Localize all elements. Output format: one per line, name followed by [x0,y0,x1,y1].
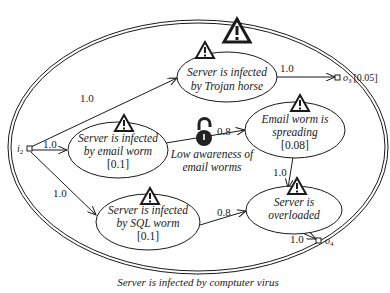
svg-text:overloaded: overloaded [268,209,320,221]
unlocked-padlock-icon [196,119,212,147]
svg-text:Server is infected: Server is infected [187,66,267,79]
output-port-o3: o3[0.05] [335,72,378,85]
edge-label: 1.0 [53,187,67,199]
edge-label: 1.0 [280,62,294,74]
svg-text:Email worm is: Email worm is [260,113,329,125]
node-overloaded: Server is overloaded [246,178,342,234]
node-sql-worm: Server is infected by SQL worm [0.1] [96,188,200,250]
svg-text:i2: i2 [17,143,24,156]
svg-text:by email worm: by email worm [84,145,152,158]
svg-text:spreading: spreading [272,126,318,139]
edge-label: 1.0 [273,166,287,178]
vulnerability-label: email worms [182,161,242,173]
container-warning-icon [224,19,250,42]
svg-text:Server is infected: Server is infected [78,132,158,145]
edge-label: 0.8 [217,206,231,218]
attack-tree-diagram: 1.0 1.0 1.0 1.0 0.8 1.0 0.8 1.0 Server i… [0,0,390,293]
svg-text:Server is infected: Server is infected [108,204,188,217]
svg-text:o3[0.05]: o3[0.05] [343,72,378,85]
input-port-i2: i2 [17,143,32,156]
warning-triangle-icon [196,42,214,58]
svg-text:by Trojan horse: by Trojan horse [191,80,263,93]
svg-text:[0.08]: [0.08] [281,139,309,151]
svg-text:[0.1]: [0.1] [137,230,159,242]
svg-text:by SQL worm: by SQL worm [116,217,179,230]
edge-label: 1.0 [43,138,57,150]
svg-text:Server is: Server is [274,196,315,208]
edge-spreading-overloaded [288,157,293,188]
node-email-worm: Server is infected by email worm [0.1] [68,115,168,178]
edge-label: 1.0 [290,233,304,245]
vulnerability-label: Low awareness of [170,148,255,161]
node-email-spreading: Email worm is spreading [0.08] [245,95,345,158]
node-trojan: Server is infected by Trojan horse [177,42,277,102]
edge-label: 1.0 [80,92,94,104]
edge-label: 0.8 [217,125,231,137]
diagram-caption: Server is infected by comptuter virus [117,276,279,288]
svg-text:[0.1]: [0.1] [107,158,129,170]
